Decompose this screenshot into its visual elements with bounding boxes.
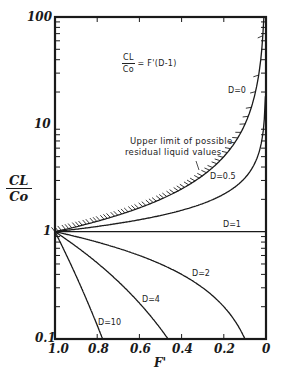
hatch-mark [139,203,143,207]
hatch-mark [118,210,122,214]
curve-label-d1: D=1 [223,220,241,229]
x-tick-0.2: 0.2 [214,342,235,356]
hatch-mark [162,193,166,196]
curve-label-d10: D=10 [98,318,121,327]
hatch-mark [93,217,97,221]
hatch-mark [75,222,79,226]
hatch-mark [194,175,199,178]
hatch-mark [128,207,132,211]
hatch-mark [86,219,90,223]
hatch-mark [96,216,100,220]
equation: CL Co = F'(D-1) [122,52,177,75]
callout-leader [196,161,199,170]
hatch-mark [100,215,104,219]
hatch-mark [166,191,170,194]
hatch-mark [184,182,189,185]
hatch-mark [174,188,179,191]
y-tick-10: 10 [34,117,51,131]
x-tick-0.8: 0.8 [88,342,109,356]
hatch-mark [146,200,150,204]
y-axis-numerator: CL [6,173,32,189]
hatch-mark [208,165,213,167]
annotation-upper-limit: Upper limit of possible residual liquid … [125,136,232,158]
x-tick-0: 0 [262,342,270,356]
curve-label-d2: D=2 [192,269,210,278]
curve-label-d4: D=4 [142,295,160,304]
hatch-mark [131,205,135,209]
hatch-mark [142,202,146,206]
annotation-line-1: Upper limit of possible [125,136,232,147]
y-axis-denominator: Co [9,189,28,204]
annotation-line-2: residual liquid values [125,147,232,158]
curve-label-d0: D=0 [228,86,246,95]
hatch-mark [83,220,87,224]
hatch-mark [190,178,195,181]
hatch-mark [152,198,156,202]
y-axis-fraction: CL Co [6,173,32,204]
hatch-mark [68,224,72,228]
hatch-mark [124,208,128,212]
x-tick-0.4: 0.4 [172,342,193,356]
y-tick-100: 100 [27,10,52,24]
y-tick-1: 1 [43,224,51,238]
hatch-mark [121,209,125,213]
hatch-mark [58,226,62,230]
hatch-mark [90,218,94,222]
equation-fraction: CL Co [122,52,135,75]
hatch-mark [180,184,185,187]
x-tick-1.0: 1.0 [48,342,69,356]
hatch-mark [212,162,217,164]
hatch-mark [159,194,163,198]
hatch-mark [215,159,220,161]
curve-d-0 [55,17,264,232]
hatch-mark [177,186,182,189]
hatch-mark [114,211,118,215]
hatch-mark [111,212,115,216]
hatch-mark [134,204,138,208]
hatch-mark [65,224,69,228]
hatch-mark [204,168,209,170]
equation-denominator: Co [123,64,134,75]
curve-d-05 [55,96,265,231]
x-axis-label: F' [154,356,166,370]
equation-rhs: = F'(D-1) [138,59,177,68]
hatch-mark [62,225,66,229]
curve-d-2 [55,232,245,339]
equation-numerator: CL [122,52,135,64]
hatch-mark [72,223,76,227]
hatch-mark [103,214,107,218]
hatch-mark [79,221,83,225]
x-tick-0.6: 0.6 [130,342,151,356]
hatch-mark [107,213,111,217]
hatch-mark [201,170,206,172]
hatch-mark [149,199,153,203]
y-axis-label: CL Co [6,173,32,204]
hatch-mark [170,190,174,193]
hatch-mark [187,180,192,183]
hatch-mark [197,173,202,176]
curve-label-d05: D=0.5 [210,172,236,181]
hatch-mark [156,196,160,200]
